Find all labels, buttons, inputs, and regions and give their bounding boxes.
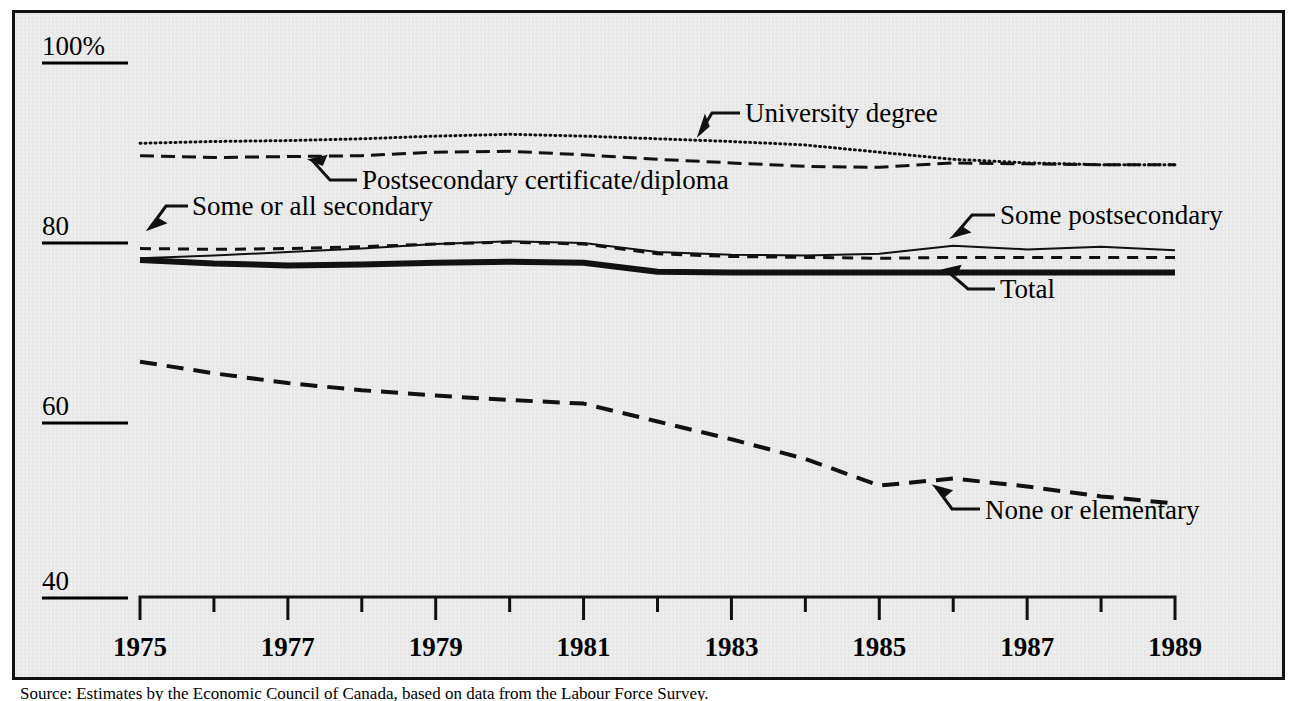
annotation-total: Total: [1000, 274, 1055, 304]
leader-some-or-all-secondary: [150, 206, 188, 228]
annotation-none-or-elementary: None or elementary: [985, 495, 1200, 525]
y-tick-label-60: 60: [42, 391, 69, 421]
x-tick-label-1981: 1981: [557, 632, 611, 662]
leader-university-degree: [700, 113, 740, 133]
source-note: Source: Estimates by the Economic Counci…: [20, 684, 709, 701]
series-line-some-or-all-secondary: [140, 242, 1175, 258]
x-tick-label-1983: 1983: [704, 632, 758, 662]
annotation-some-or-all-secondary: Some or all secondary: [192, 191, 433, 221]
x-tick-label-1977: 1977: [261, 632, 315, 662]
y-tick-80: 80: [42, 211, 128, 243]
x-tick-label-1985: 1985: [852, 632, 906, 662]
x-tick-label-1987: 1987: [1000, 632, 1054, 662]
y-tick-label-80: 80: [42, 211, 69, 241]
series-line-none-or-elementary: [140, 362, 1175, 504]
y-tick-40: 40: [42, 566, 128, 598]
annotation-university-degree: University degree: [745, 98, 938, 128]
leader-none-or-elementary: [936, 487, 980, 509]
y-tick-60: 60: [42, 391, 128, 423]
x-tick-label-1979: 1979: [409, 632, 463, 662]
figure-root: 100% 80 60 40 19751977197919811983198519…: [0, 0, 1295, 701]
x-tick-label-1989: 1989: [1148, 632, 1202, 662]
y-tick-label-100: 100%: [42, 31, 105, 61]
y-tick-label-40: 40: [42, 566, 69, 596]
series-line-total: [140, 260, 1175, 272]
annotation-some-postsecondary: Some postsecondary: [1000, 200, 1223, 230]
line-chart: 100% 80 60 40 19751977197919811983198519…: [0, 0, 1295, 701]
leader-postsecondary-certificate: [312, 157, 357, 180]
y-axis: 100% 80 60 40: [42, 31, 128, 598]
x-axis: 19751977197919811983198519871989: [113, 597, 1202, 662]
x-tick-label-1975: 1975: [113, 632, 167, 662]
leader-some-postsecondary: [954, 215, 995, 236]
y-tick-100: 100%: [42, 31, 128, 63]
